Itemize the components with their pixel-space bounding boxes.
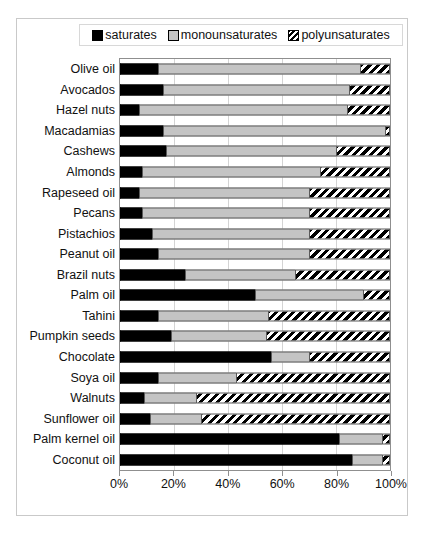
x-tick-mark <box>173 471 174 476</box>
bar-segment-saturates <box>120 269 185 280</box>
bar-row: Rapeseed oil <box>120 182 390 203</box>
bar-row: Macadamias <box>120 121 390 142</box>
bar-row: Walnuts <box>120 388 390 409</box>
stacked-bar <box>120 187 390 198</box>
bar-segment-saturates <box>120 105 139 116</box>
x-tick-label: 100% <box>375 478 407 491</box>
bar-segment-polyunsaturates <box>196 393 390 404</box>
bar-row: Pistachios <box>120 223 390 244</box>
stacked-bar <box>120 167 390 178</box>
bar-segment-saturates <box>120 454 352 465</box>
x-tick-mark <box>391 471 392 476</box>
bar-row: Brazil nuts <box>120 265 390 286</box>
legend-swatch-polyunsaturates-icon <box>288 30 299 41</box>
category-label: Sunflower oil <box>43 412 115 425</box>
bar-segment-monounsaturates <box>139 105 347 116</box>
category-label: Palm oil <box>71 289 115 302</box>
stacked-bar <box>120 269 390 280</box>
bar-segment-monounsaturates <box>150 413 201 424</box>
stacked-bar <box>120 146 390 157</box>
bar-segment-polyunsaturates <box>349 84 390 95</box>
bar-segment-polyunsaturates <box>309 208 390 219</box>
bar-segment-polyunsaturates <box>236 372 390 383</box>
bar-row: Palm oil <box>120 285 390 306</box>
x-tick-mark <box>119 471 120 476</box>
stacked-bar <box>120 331 390 342</box>
bar-segment-polyunsaturates <box>382 434 390 445</box>
bar-segment-saturates <box>120 249 158 260</box>
category-label: Peanut oil <box>59 248 115 261</box>
bar-segment-monounsaturates <box>352 454 382 465</box>
stacked-bar <box>120 84 390 95</box>
bar-row: Tahini <box>120 306 390 327</box>
bar-segment-polyunsaturates <box>360 64 390 75</box>
bar-segment-polyunsaturates <box>385 125 390 136</box>
bar-segment-saturates <box>120 146 166 157</box>
bar-segment-saturates <box>120 187 139 198</box>
bar-segment-polyunsaturates <box>309 249 390 260</box>
bar-segment-polyunsaturates <box>347 105 390 116</box>
bar-segment-polyunsaturates <box>363 290 390 301</box>
x-tick-label: 40% <box>215 478 240 491</box>
x-tick-label: 0% <box>110 478 128 491</box>
category-label: Chocolate <box>59 351 115 364</box>
bar-segment-saturates <box>120 434 339 445</box>
bar-segment-saturates <box>120 310 158 321</box>
legend-entry-monounsaturates: monounsaturates <box>168 29 278 42</box>
bar-row: Cashews <box>120 141 390 162</box>
category-label: Rapeseed oil <box>42 186 115 199</box>
bar-segment-saturates <box>120 208 142 219</box>
bar-segment-monounsaturates <box>158 64 361 75</box>
bar-segment-saturates <box>120 331 171 342</box>
bar-row: Chocolate <box>120 347 390 368</box>
bar-segment-polyunsaturates <box>309 351 390 362</box>
bar-row: Hazel nuts <box>120 100 390 121</box>
bar-row: Palm kernel oil <box>120 429 390 450</box>
legend-entry-saturates: saturates <box>92 29 156 42</box>
x-tick-mark <box>282 471 283 476</box>
bar-segment-monounsaturates <box>271 351 309 362</box>
category-label: Soya oil <box>71 371 115 384</box>
category-label: Olive oil <box>71 63 115 76</box>
bar-segment-monounsaturates <box>144 393 195 404</box>
legend-swatch-monounsaturates-icon <box>168 30 179 41</box>
bar-segment-polyunsaturates <box>336 146 390 157</box>
bar-segment-polyunsaturates <box>320 167 390 178</box>
stacked-bar <box>120 372 390 383</box>
bar-row: Pecans <box>120 203 390 224</box>
category-label: Hazel nuts <box>56 104 115 117</box>
bar-segment-polyunsaturates <box>268 310 390 321</box>
stacked-bar <box>120 434 390 445</box>
bar-segment-monounsaturates <box>142 167 320 178</box>
bar-segment-saturates <box>120 413 150 424</box>
bar-row: Coconut oil <box>120 449 390 470</box>
chart-frame: saturates monounsaturates polyunsaturate… <box>16 18 408 516</box>
category-label: Avocados <box>60 84 115 97</box>
bar-segment-polyunsaturates <box>201 413 390 424</box>
bar-segment-monounsaturates <box>163 125 384 136</box>
legend-entry-polyunsaturates: polyunsaturates <box>288 29 389 42</box>
category-label: Macadamias <box>44 125 115 138</box>
x-tick-mark <box>228 471 229 476</box>
legend-swatch-saturates-icon <box>92 30 103 41</box>
bar-segment-polyunsaturates <box>382 454 390 465</box>
x-tick-mark <box>337 471 338 476</box>
bar-segment-polyunsaturates <box>295 269 390 280</box>
stacked-bar <box>120 413 390 424</box>
bar-segment-polyunsaturates <box>309 187 390 198</box>
bar-segment-polyunsaturates <box>266 331 390 342</box>
bar-segment-saturates <box>120 351 271 362</box>
bar-segment-monounsaturates <box>166 146 336 157</box>
bar-segment-monounsaturates <box>255 290 363 301</box>
stacked-bar <box>120 454 390 465</box>
bar-segment-saturates <box>120 84 163 95</box>
stacked-bar <box>120 105 390 116</box>
category-label: Pistachios <box>58 227 115 240</box>
stacked-bar <box>120 290 390 301</box>
bar-row: Almonds <box>120 162 390 183</box>
bar-segment-monounsaturates <box>339 434 382 445</box>
category-label: Palm kernel oil <box>33 433 115 446</box>
bar-segment-polyunsaturates <box>309 228 390 239</box>
stacked-bar <box>120 208 390 219</box>
x-tick-label: 60% <box>270 478 295 491</box>
